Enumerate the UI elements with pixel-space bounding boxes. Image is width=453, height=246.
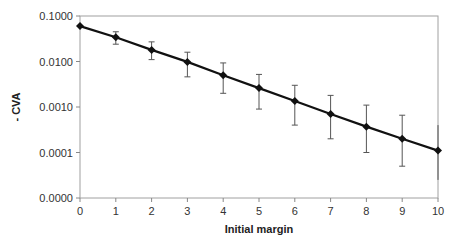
x-axis: 012345678910 xyxy=(77,198,444,217)
x-axis-title: Initial margin xyxy=(225,223,294,235)
y-tick-label: 0.0001 xyxy=(39,147,73,159)
y-axis: 0.10000.01000.00100.00010.0000 xyxy=(39,10,80,204)
x-tick-label: 7 xyxy=(328,205,334,217)
x-tick-label: 9 xyxy=(399,205,405,217)
x-tick-label: 0 xyxy=(77,205,83,217)
cva-chart: 0.10000.01000.00100.00010.0000 012345678… xyxy=(0,0,453,246)
x-tick-label: 6 xyxy=(292,205,298,217)
y-tick-label: 0.0010 xyxy=(39,101,73,113)
y-tick-label: 0.0000 xyxy=(39,192,73,204)
x-tick-label: 10 xyxy=(432,205,444,217)
x-tick-label: 1 xyxy=(113,205,119,217)
y-axis-title: - CVA xyxy=(10,92,22,121)
x-tick-label: 5 xyxy=(256,205,262,217)
x-tick-label: 4 xyxy=(220,205,226,217)
x-tick-label: 3 xyxy=(184,205,190,217)
x-tick-label: 2 xyxy=(149,205,155,217)
y-tick-label: 0.0100 xyxy=(39,56,73,68)
y-tick-label: 0.1000 xyxy=(39,10,73,22)
x-tick-label: 8 xyxy=(363,205,369,217)
